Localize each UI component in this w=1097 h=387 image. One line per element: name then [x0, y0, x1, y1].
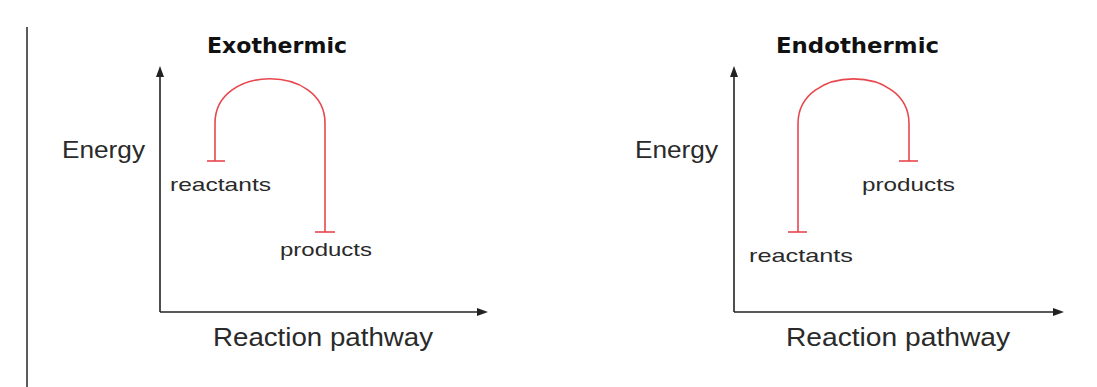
diagram-title: Exothermic — [207, 33, 347, 58]
x-axis-arrow-icon — [1053, 308, 1064, 316]
y-axis-label: Energy — [635, 136, 718, 163]
y-axis-label: Energy — [62, 136, 145, 163]
endothermic-diagram: Endothermic Energy Reaction pathway prod… — [635, 33, 1064, 351]
exothermic-diagram: Exothermic Energy Reaction pathway react… — [62, 33, 488, 351]
products-label: products — [862, 174, 955, 195]
x-axis-arrow-icon — [477, 308, 488, 316]
energy-curve — [215, 79, 325, 232]
x-axis-label: Reaction pathway — [213, 323, 434, 351]
reactants-label: reactants — [170, 174, 271, 195]
reactants-label: reactants — [749, 245, 853, 266]
y-axis-arrow-icon — [730, 66, 738, 77]
diagram-title: Endothermic — [776, 33, 939, 58]
products-label: products — [280, 239, 372, 260]
energy-curve — [798, 79, 909, 232]
x-axis-label: Reaction pathway — [786, 323, 1011, 351]
y-axis-arrow-icon — [156, 66, 164, 77]
energy-diagrams-canvas: Exothermic Energy Reaction pathway react… — [0, 0, 1097, 387]
